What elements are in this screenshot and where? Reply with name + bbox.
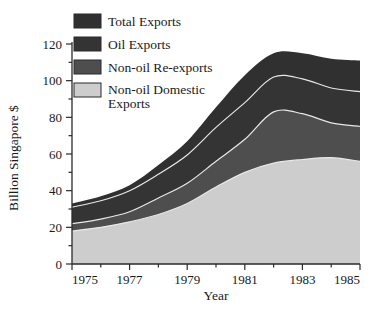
x-tick-label-1975: 1975 xyxy=(72,272,98,287)
legend-label-1: Oil Exports xyxy=(108,37,171,52)
x-tick-label-1983: 1983 xyxy=(289,272,315,287)
legend-label-3: Non-oil Domestic xyxy=(108,82,205,97)
x-tick-label-1985: 1985 xyxy=(334,272,360,287)
legend-swatch-0 xyxy=(74,14,101,28)
x-axis-title: Year xyxy=(204,288,229,303)
y-axis-tick-labels: 020406080100120 xyxy=(43,37,63,272)
y-tick-label-20: 20 xyxy=(49,220,62,235)
legend-swatch-2 xyxy=(74,60,101,74)
export-area-chart: 020406080100120 197519771979198119831985… xyxy=(0,0,380,310)
x-axis-ticks xyxy=(72,264,360,270)
y-tick-label-100: 100 xyxy=(43,73,63,88)
legend-swatch-1 xyxy=(74,37,101,51)
x-tick-label-1977: 1977 xyxy=(117,272,144,287)
y-axis-title: Billion Singapore $ xyxy=(6,105,21,211)
x-tick-label-1979: 1979 xyxy=(174,272,200,287)
y-tick-label-60: 60 xyxy=(49,147,62,162)
legend-label-2: Non-oil Re-exports xyxy=(108,60,213,75)
y-tick-label-40: 40 xyxy=(49,183,62,198)
x-tick-label-1981: 1981 xyxy=(232,272,258,287)
y-tick-label-0: 0 xyxy=(56,257,63,272)
x-axis-tick-labels: 197519771979198119831985 xyxy=(72,272,360,287)
chart-canvas: 020406080100120 197519771979198119831985… xyxy=(0,0,380,310)
legend-label-0: Total Exports xyxy=(108,14,181,29)
y-axis-ticks xyxy=(66,44,72,264)
y-tick-label-120: 120 xyxy=(43,37,63,52)
legend-swatch-3 xyxy=(74,83,101,97)
y-tick-label-80: 80 xyxy=(49,110,62,125)
legend-label-3-line2: Exports xyxy=(108,96,150,111)
chart-legend: Total ExportsOil ExportsNon-oil Re-expor… xyxy=(74,14,213,112)
